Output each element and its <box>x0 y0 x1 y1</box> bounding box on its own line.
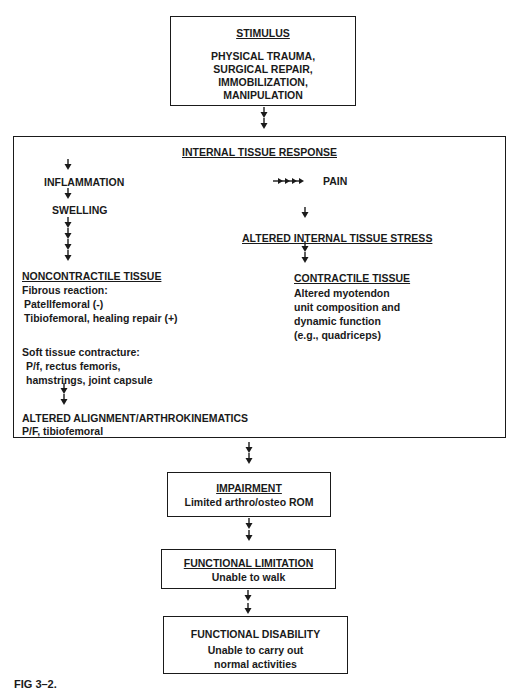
disability-line-2: normal activities <box>164 658 347 671</box>
disability-box: FUNCTIONAL DISABILITY Unable to carry ou… <box>163 616 348 674</box>
figure-caption: FIG 3–2. <box>14 678 57 691</box>
arrow-limitation-to-disability <box>0 0 520 692</box>
disability-line-1: Unable to carry out <box>164 644 347 657</box>
disability-title: FUNCTIONAL DISABILITY <box>164 628 347 641</box>
